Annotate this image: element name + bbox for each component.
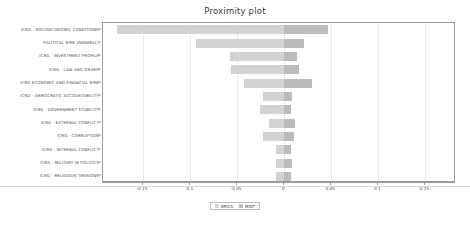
bar-segment-brics [263, 92, 285, 101]
bar-segment-brics [260, 105, 284, 114]
x-axis-tick-mark [330, 182, 331, 185]
y-axis-tick-label: ICRG - SOCIOECONOMIC CONDITIONS [21, 26, 99, 31]
y-axis-tick-mark [98, 122, 101, 123]
bar-segment-mint [284, 172, 291, 181]
bar-row [103, 39, 454, 48]
y-axis-tick-label: ICRG - LAW AND ORDER [49, 66, 99, 71]
x-axis-tick-mark [189, 182, 190, 185]
bar-segment-mint [284, 52, 297, 61]
chart-legend: BRICSMINT [210, 202, 260, 210]
y-axis-tick-label: ICRG - RELIGIOUS TENSIONS [40, 173, 99, 178]
bar-segment-brics [117, 25, 285, 34]
x-axis-tick-mark [424, 182, 425, 185]
legend-item[interactable]: BRICS [215, 204, 233, 209]
bar-segment-brics [276, 145, 284, 154]
x-axis-tick-label: -0.15 [137, 186, 148, 191]
y-axis-tick-mark [98, 68, 101, 69]
x-axis-line [102, 182, 455, 183]
bar-row [103, 52, 454, 61]
x-axis-tick-label: 0.15 [420, 186, 429, 191]
bar-segment-brics [263, 132, 284, 141]
bar-row [103, 145, 454, 154]
x-axis-tick-label: 0.05 [326, 186, 335, 191]
bar-segment-brics [230, 52, 285, 61]
y-axis-tick-mark [98, 55, 101, 56]
x-axis-tick-mark [142, 182, 143, 185]
y-axis-labels: ICRG - SOCIOECONOMIC CONDITIONSPOLITICAL… [0, 22, 101, 182]
y-axis-tick-mark [98, 135, 101, 136]
y-axis-tick-mark [98, 148, 101, 149]
x-axis-tick-mark [377, 182, 378, 185]
y-axis-tick-mark [98, 42, 101, 43]
x-axis-tick-label: -0.05 [231, 186, 242, 191]
bar-segment-brics [244, 79, 284, 88]
plot-area [102, 22, 455, 182]
bar-segment-mint [284, 39, 304, 48]
y-axis-tick-label: ICRG - INVESTMENT PROFILE [39, 53, 99, 58]
x-axis-tick-mark [283, 182, 284, 185]
bar-row [103, 132, 454, 141]
bar-row [103, 25, 454, 34]
bar-segment-brics [269, 119, 284, 128]
x-axis-tick-label: 0 [282, 186, 285, 191]
y-axis-tick-label: ICRG - DEMOCRATIC ACCOUNTABILITY [20, 93, 99, 98]
y-axis-tick-mark [98, 28, 101, 29]
y-axis-tick-mark [98, 95, 101, 96]
x-axis-tick-mark [236, 182, 237, 185]
y-axis-tick-label: ICRG ECONOMIC AND FINANCIAL RISK [20, 80, 99, 85]
x-axis-tick-label: -0.1 [185, 186, 193, 191]
bar-segment-brics [231, 65, 285, 74]
bar-row [103, 105, 454, 114]
legend-label: MINT [245, 204, 255, 209]
y-axis-tick-mark [98, 175, 101, 176]
y-axis-tick-mark [98, 108, 101, 109]
bar-segment-mint [284, 132, 293, 141]
proximity-plot-figure: Proximity plot ICRG - SOCIOECONOMIC COND… [0, 0, 470, 225]
bar-segment-mint [284, 159, 292, 168]
legend-swatch-icon [215, 204, 219, 208]
bar-segment-brics [276, 159, 284, 168]
y-axis-tick-label: ICRG - GOVERNMENT STABILITY [33, 106, 99, 111]
bar-segment-mint [284, 79, 311, 88]
bar-segment-brics [276, 172, 284, 181]
bar-row [103, 79, 454, 88]
y-axis-tick-label: ICRG - MILITARY IN POLITICS [40, 160, 99, 165]
bar-row [103, 172, 454, 181]
legend-label: BRICS [221, 204, 233, 209]
bar-row [103, 119, 454, 128]
bar-row [103, 159, 454, 168]
bar-row [103, 65, 454, 74]
bar-segment-mint [284, 92, 292, 101]
y-axis-tick-label: ICRG - EXTERNAL CONFLICT [41, 120, 99, 125]
bars-layer [103, 23, 454, 181]
y-axis-tick-mark [98, 82, 101, 83]
bar-segment-mint [284, 105, 291, 114]
legend-item[interactable]: MINT [239, 204, 255, 209]
bar-segment-mint [284, 145, 291, 154]
bar-segment-mint [284, 25, 328, 34]
bar-segment-brics [196, 39, 284, 48]
chart-title: Proximity plot [0, 6, 470, 16]
bar-row [103, 92, 454, 101]
x-axis-tick-label: 0.1 [374, 186, 381, 191]
bar-segment-mint [284, 119, 294, 128]
y-axis-tick-label: POLITICAL RISK (GENERAL) [43, 40, 99, 45]
legend-swatch-icon [239, 204, 243, 208]
y-axis-tick-label: ICRG - CORRUPTION [57, 133, 99, 138]
bar-segment-mint [284, 65, 299, 74]
y-axis-tick-mark [98, 162, 101, 163]
y-axis-tick-label: ICRG - INTERNAL CONFLICT [42, 146, 99, 151]
